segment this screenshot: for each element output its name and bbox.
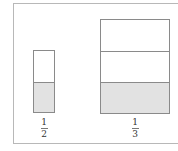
third-numerator: 1 [125,118,145,127]
third-bar-unshaded-part-1 [101,20,169,51]
third-denominator: 3 [125,130,145,139]
third-bar-unshaded-part-2 [101,51,169,82]
third-bar-shaded-part [101,82,169,113]
half-bar-unshaded-part [34,51,54,82]
third-bar [100,19,170,114]
half-denominator: 2 [34,130,54,139]
half-bar-shaded-part [34,82,54,112]
half-numerator: 1 [34,118,54,127]
third-label: 1 3 [125,118,145,139]
half-label: 1 2 [34,118,54,139]
half-bar [33,50,55,113]
